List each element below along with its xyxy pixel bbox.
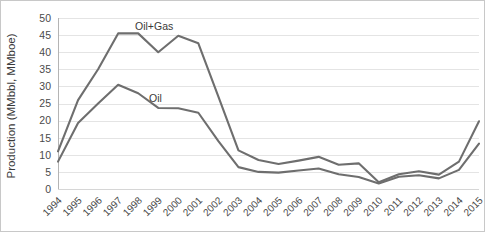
y-tick-label-30: 30 — [39, 80, 51, 92]
y-tick-label-10: 10 — [39, 149, 51, 161]
x-tick-label-2003: 2003 — [221, 194, 245, 218]
x-tick-label-2009: 2009 — [341, 194, 365, 218]
y-tick-label-20: 20 — [39, 114, 51, 126]
x-tick-label-2008: 2008 — [321, 194, 345, 218]
y-tick-label-45: 45 — [39, 29, 51, 41]
x-tick-label-2001: 2001 — [181, 194, 205, 218]
line-chart-canvas: 05101520253035404550 1994199519961997199… — [1, 1, 485, 232]
x-tick-label-2000: 2000 — [161, 194, 185, 218]
y-tick-label-0: 0 — [45, 183, 51, 195]
x-tick-label-2011: 2011 — [382, 194, 405, 217]
x-tick-label-1996: 1996 — [80, 194, 104, 218]
x-tick-label-2005: 2005 — [261, 194, 285, 218]
y-axis-title: Production (MMbbl, MMboe) — [5, 33, 17, 178]
x-tick-label-2004: 2004 — [241, 194, 265, 218]
x-tick-label-1995: 1995 — [60, 194, 84, 218]
series-line-oil — [58, 85, 479, 184]
x-tick-label-1997: 1997 — [101, 194, 125, 218]
chart-figure: 05101520253035404550 1994199519961997199… — [0, 0, 485, 232]
y-tick-label-5: 5 — [45, 166, 51, 178]
y-tick-label-25: 25 — [39, 97, 51, 109]
x-axis-tick-labels: 1994199519961997199819992000200120022003… — [40, 194, 485, 218]
series-annotation-oil-gas: Oil+Gas — [135, 20, 173, 32]
x-tick-label-2012: 2012 — [401, 194, 425, 218]
y-tick-label-40: 40 — [39, 46, 51, 58]
y-axis-tick-labels: 05101520253035404550 — [39, 12, 51, 195]
y-tick-label-35: 35 — [39, 63, 51, 75]
x-tick-label-2015: 2015 — [461, 194, 485, 218]
x-tick-label-2007: 2007 — [301, 194, 325, 218]
series-annotations-group: Oil+GasOil — [135, 20, 173, 104]
x-tick-label-2002: 2002 — [201, 194, 225, 218]
gridlines-group — [58, 19, 479, 190]
y-tick-label-15: 15 — [39, 132, 51, 144]
x-tick-label-1998: 1998 — [121, 194, 145, 218]
data-series-group — [58, 33, 479, 183]
x-tick-label-1994: 1994 — [40, 194, 64, 218]
x-tick-label-2014: 2014 — [441, 194, 465, 218]
x-tick-label-2013: 2013 — [421, 194, 445, 218]
series-line-oil-gas — [58, 33, 479, 182]
x-tick-label-2006: 2006 — [281, 194, 305, 218]
series-annotation-oil: Oil — [149, 92, 162, 104]
y-axis-title-group: Production (MMbbl, MMboe) — [5, 33, 17, 178]
x-tick-label-1999: 1999 — [141, 194, 165, 218]
y-tick-label-50: 50 — [39, 12, 51, 24]
x-tick-label-2010: 2010 — [361, 194, 385, 218]
